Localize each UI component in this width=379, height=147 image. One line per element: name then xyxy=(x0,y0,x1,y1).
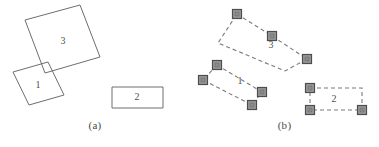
rect-1-corner-marker-core xyxy=(215,63,219,67)
rect-3-outline xyxy=(218,14,307,71)
rect-3-corner-marker-core xyxy=(305,57,309,61)
shape-rect-1-panel-a: 1 xyxy=(13,62,64,105)
rect-2-corner-marker-core xyxy=(360,108,364,112)
figure-container: 312 (a) 312 (b) xyxy=(0,0,379,147)
rect-2-label: 2 xyxy=(332,93,337,104)
shape-rect-2-panel-b: 2 xyxy=(306,84,367,115)
rect-2-label: 2 xyxy=(135,91,140,102)
rect-1-outline xyxy=(203,65,262,105)
rect-3-label: 3 xyxy=(269,39,274,50)
shape-rect-1-panel-b: 1 xyxy=(199,61,267,110)
rect-1-corner-marker-core xyxy=(260,90,264,94)
rect-3-corner-marker-core xyxy=(270,34,274,38)
rect-3-corner-marker-core xyxy=(235,12,239,16)
shape-rect-3-panel-a: 3 xyxy=(25,5,100,73)
rect-3-label: 3 xyxy=(61,35,66,46)
panel-a-caption: (a) xyxy=(0,119,190,131)
rect-1-label: 1 xyxy=(36,79,41,90)
rect-1-corner-marker-core xyxy=(250,103,254,107)
rect-1-corner-marker-core xyxy=(201,78,205,82)
shape-rect-2-panel-a: 2 xyxy=(112,87,163,108)
panel-b: 312 (b) xyxy=(190,0,379,147)
panel-b-drawing: 312 xyxy=(190,0,379,118)
rect-2-corner-marker-core xyxy=(308,86,312,90)
panel-a: 312 (a) xyxy=(0,0,190,147)
rect-1-label: 1 xyxy=(238,75,243,86)
shape-rect-3-panel-b: 3 xyxy=(218,10,312,72)
panel-a-drawing: 312 xyxy=(0,0,190,118)
rect-2-corner-marker-core xyxy=(308,108,312,112)
panel-b-caption: (b) xyxy=(190,119,379,131)
